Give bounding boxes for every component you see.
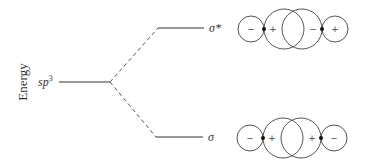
phase-sign: + [270,23,276,35]
phase-sign: + [269,132,275,144]
energy-axis-label: Energy [15,63,30,101]
connector-to-antibonding [110,28,158,82]
phase-sign: − [248,23,254,35]
phase-sign: − [247,132,253,144]
connector-to-bonding [110,82,156,137]
phase-sign: − [331,132,337,144]
phase-sign: + [332,23,338,35]
phase-sign: − [310,23,316,35]
mo-energy-diagram: Energy sp3 σ* σ − + − + − + + − [0,0,365,164]
nucleus-dot [320,27,324,31]
sigma-label: σ [208,130,215,144]
sp3-label: sp3 [38,74,53,89]
sigma-star-label: σ* [209,21,221,35]
nucleus-dot [261,136,265,140]
nucleus-dot [319,136,323,140]
nucleus-dot [262,27,266,31]
phase-sign: + [309,132,315,144]
